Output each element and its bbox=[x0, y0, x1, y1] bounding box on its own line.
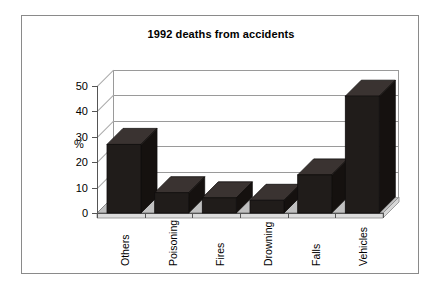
xtick-mark-1 bbox=[145, 213, 146, 218]
bar-others[interactable] bbox=[107, 128, 157, 213]
xtick-mark-5 bbox=[335, 213, 336, 218]
bar-poisoning[interactable] bbox=[155, 177, 205, 213]
xtick-mark-4 bbox=[288, 213, 289, 218]
category-label-others: Others bbox=[119, 234, 131, 266]
category-label-drowning: Drowning bbox=[262, 222, 274, 266]
chart-frame: 1992 deaths from accidents 50 bbox=[21, 15, 419, 274]
bar-drowning[interactable] bbox=[250, 184, 300, 213]
xtick-mark-2 bbox=[192, 213, 193, 218]
xtick-mark-0 bbox=[97, 213, 98, 218]
category-label-vehicles: Vehicles bbox=[357, 227, 369, 266]
bar-fires[interactable] bbox=[202, 182, 252, 213]
category-label-falls: Falls bbox=[310, 244, 322, 266]
category-label-fires: Fires bbox=[214, 243, 226, 266]
plot-area: 50 40 30 20 10 0 % bbox=[22, 16, 420, 275]
bar-falls[interactable] bbox=[298, 159, 348, 213]
bar-vehicles[interactable] bbox=[345, 80, 395, 213]
category-label-poisoning: Poisoning bbox=[167, 220, 179, 266]
xtick-mark-3 bbox=[240, 213, 241, 218]
xtick-mark-6 bbox=[383, 213, 384, 218]
